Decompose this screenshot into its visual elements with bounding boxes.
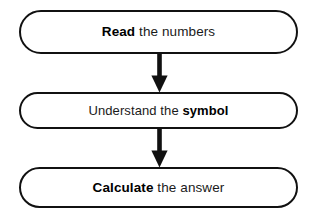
flowchart-arrow-understand-to-calculate: [151, 128, 168, 168]
flowchart-node-understand: Understand the symbol: [19, 92, 298, 129]
flowchart-node-calculate-label-rest: the answer: [154, 180, 225, 195]
flowchart-node-calculate-label-bold: Calculate: [93, 180, 154, 195]
flowchart-diagram: Read the numbers Understand the symbol C…: [0, 0, 318, 217]
arrow-down-icon: [151, 53, 168, 93]
arrow-down-icon: [151, 128, 168, 168]
flowchart-node-understand-label-bold: symbol: [182, 103, 228, 118]
flowchart-node-understand-label: Understand the symbol: [88, 104, 228, 117]
flowchart-node-read-label-rest: the numbers: [135, 24, 215, 39]
flowchart-arrow-read-to-understand: [151, 53, 168, 93]
flowchart-node-read: Read the numbers: [19, 10, 298, 54]
flowchart-node-read-label-bold: Read: [102, 24, 135, 39]
flowchart-node-understand-label-lead: Understand the: [88, 103, 182, 118]
flowchart-node-calculate-label: Calculate the answer: [93, 181, 225, 195]
flowchart-node-calculate: Calculate the answer: [19, 167, 298, 208]
flowchart-node-read-label: Read the numbers: [102, 25, 215, 39]
